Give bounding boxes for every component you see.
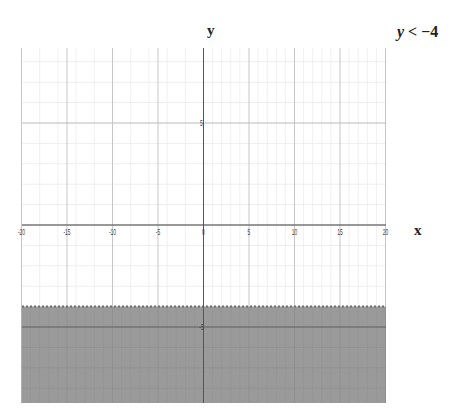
tick-label: 10	[292, 226, 298, 237]
tick-label: -15	[63, 226, 70, 237]
tick-label: 20	[383, 226, 389, 237]
tick-label: -5	[156, 226, 160, 237]
tick-label: 5	[200, 117, 203, 128]
tick-label: 15	[337, 226, 343, 237]
inequality-title: y < −4	[397, 23, 438, 41]
tick-label: -5	[199, 321, 203, 332]
y-axis-label: y	[207, 22, 215, 39]
tick-label: 5	[248, 226, 251, 237]
tick-label: -20	[18, 226, 25, 237]
coordinate-plane: -20-15-10-505101520 5-5	[0, 0, 469, 417]
tick-label: -10	[109, 226, 116, 237]
x-axis-label: x	[414, 222, 422, 239]
tick-label: 0	[202, 226, 205, 237]
title-expression: < −4	[404, 23, 438, 40]
x-tick-labels: -20-15-10-505101520	[18, 226, 388, 237]
